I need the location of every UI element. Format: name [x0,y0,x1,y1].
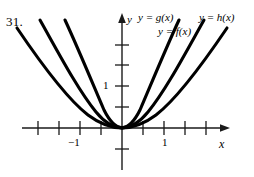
curve-label-g: y = g(x) [138,11,174,23]
plot-canvas [0,0,254,177]
y-axis-label: y [127,13,132,25]
y-axis [118,13,126,170]
x-axis-label: x [219,137,224,152]
figure-container: 31. [0,0,254,177]
x-tick-label-one: 1 [162,136,168,148]
y-tick-label-one: 1 [103,79,109,91]
curve-label-f: y = f(x) [158,25,191,37]
x-tick-label-negative-one: −1 [68,136,80,148]
curve-label-h: y = h(x) [199,11,235,23]
